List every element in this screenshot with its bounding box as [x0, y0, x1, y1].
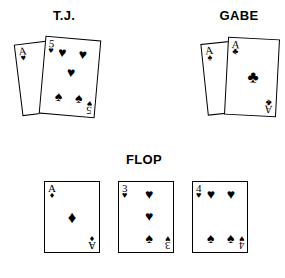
hole-cards-gabe: A ♠ A ♣ ♣ A ♣	[202, 34, 285, 126]
card-pip: ♥	[78, 46, 88, 61]
diamonds-icon: ♦	[50, 192, 55, 200]
card-corner-index: A ♥	[18, 46, 28, 63]
clubs-icon: ♣	[266, 98, 272, 106]
player-label-tj: T.J.	[34, 8, 94, 23]
player-label-gabe: GABE	[204, 8, 274, 23]
hearts-icon: ♥	[86, 99, 92, 107]
card-pip: ♥	[207, 187, 215, 201]
card-corner-index: 3 ♥	[122, 184, 128, 200]
card-pip: ♠	[75, 90, 84, 105]
card-pip: ♠	[227, 231, 234, 245]
diamonds-icon: ♦	[90, 234, 95, 242]
board-label-flop: FLOP	[114, 152, 174, 167]
card-corner-index: A ♦	[48, 184, 56, 200]
playing-card: A ♦ ♦ A ♦	[44, 181, 100, 253]
card-pip: ♣	[247, 68, 259, 86]
clubs-icon: ♣	[232, 48, 238, 56]
card-corner-index: A ♦	[88, 234, 96, 250]
card-corner-index: 5 ♥	[85, 99, 92, 115]
card-pip: ♠	[146, 231, 153, 245]
card-corner-index: 3 ♥	[165, 234, 171, 250]
playing-card: 3 ♥ ♥ ♥ ♠ 3 ♥	[118, 181, 174, 253]
playing-card: 5 ♥ ♥ ♥ ♥ ♠ ♠ 5 ♥	[39, 36, 102, 119]
playing-card: A ♣ ♣ A ♣	[224, 37, 280, 118]
hearts-icon: ♥	[48, 47, 54, 55]
card-corner-index: 4 ♥	[196, 184, 202, 200]
card-corner-index: A ♣	[231, 40, 240, 56]
playing-card: 4 ♥ ♥ ♥ ♠ ♠ 4 ♥	[192, 181, 248, 253]
card-pip: ♥	[227, 187, 235, 201]
card-corner-index: A ♠	[205, 46, 215, 63]
hearts-icon: ♥	[122, 192, 127, 200]
card-pip: ♠	[207, 231, 214, 245]
spades-icon: ♠	[207, 54, 213, 62]
card-pip: ♦	[68, 209, 77, 226]
hearts-icon: ♥	[196, 192, 201, 200]
hole-cards-tj: A ♥ 5 ♥ ♥ ♥ ♥ ♠ ♠ 5 ♥	[16, 34, 112, 126]
card-pip: ♠	[54, 89, 63, 104]
card-pip: ♥	[145, 187, 153, 201]
hearts-icon: ♥	[165, 234, 170, 242]
card-pip: ♥	[66, 65, 76, 80]
hearts-icon: ♥	[239, 234, 244, 242]
card-pip: ♥	[58, 45, 68, 60]
hearts-icon: ♥	[20, 55, 26, 63]
card-corner-index: 4 ♥	[239, 234, 245, 250]
card-corner-index: 5 ♥	[48, 39, 55, 55]
card-pip: ♥	[145, 209, 153, 223]
card-corner-index: A ♣	[264, 98, 273, 114]
